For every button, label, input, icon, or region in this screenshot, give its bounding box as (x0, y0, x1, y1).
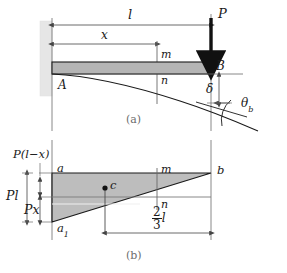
deflection-label-delta: δ (206, 83, 213, 95)
diagram-corner-label-a1: a1 (57, 223, 69, 237)
slope-label-theta-b: θb (241, 97, 253, 112)
partial-moment-label: Px (24, 204, 39, 217)
section-label-m-b: m (161, 164, 171, 175)
panel-a-caption: (a) (126, 113, 141, 126)
point-load-label: P (218, 7, 227, 20)
diagram-corner-label-a: a (57, 163, 64, 175)
section-label-m-a: m (161, 49, 171, 60)
corner-a1-symbol: a (57, 221, 64, 235)
centroid-distance-label: 2 3 l (152, 206, 165, 231)
wall-support (40, 21, 52, 96)
fraction-denominator: 3 (152, 219, 162, 231)
centroid-distance-unit: l (162, 211, 166, 225)
fraction-numerator: 2 (152, 206, 162, 219)
moment-diagram-triangle (52, 173, 211, 222)
slope-angle-arc (221, 100, 231, 126)
deflection-curve (52, 74, 258, 131)
panel-b-caption: (b) (126, 249, 142, 262)
support-label-a: A (58, 79, 67, 91)
corner-a1-subscript: 1 (64, 230, 69, 239)
moment-ordinate-label: P(l−x) (13, 149, 50, 161)
free-end-label-b: B (216, 60, 225, 72)
beam-element (52, 62, 211, 74)
section-label-n-a: n (161, 75, 168, 86)
dim-length-label: l (128, 8, 132, 21)
total-moment-label: Pl (6, 190, 18, 203)
centroid-label-c: c (110, 180, 116, 192)
centroid-distance-fraction: 2 3 (152, 206, 162, 231)
diagram-corner-label-b: b (217, 165, 224, 177)
beam-deflection-figure: l x P A B m n δ θb (a) P(l−x) Pl Px a a1… (0, 0, 287, 273)
dim-x-label: x (101, 29, 108, 41)
figure-drawing (0, 0, 287, 273)
slope-subscript: b (248, 104, 253, 114)
